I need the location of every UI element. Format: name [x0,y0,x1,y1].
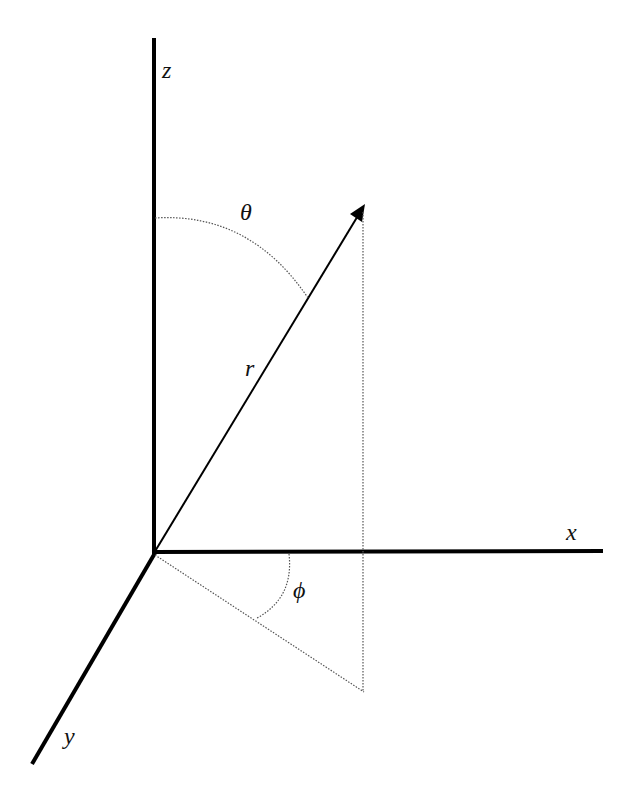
phi-arc [257,554,290,618]
theta-angle-label: θ [240,199,252,225]
xy-projection-line [155,555,364,692]
r-vector [154,214,359,553]
y-axis [32,553,155,764]
phi-angle-label: ϕ [293,577,305,603]
r-vector-label: r [245,355,255,381]
x-axis-label: x [565,519,577,545]
x-axis [152,551,603,552]
theta-arc [155,218,308,298]
y-axis-label: y [62,723,75,749]
z-axis-label: z [161,57,172,83]
spherical-coordinates-diagram: z x y r θ ϕ [0,0,631,802]
